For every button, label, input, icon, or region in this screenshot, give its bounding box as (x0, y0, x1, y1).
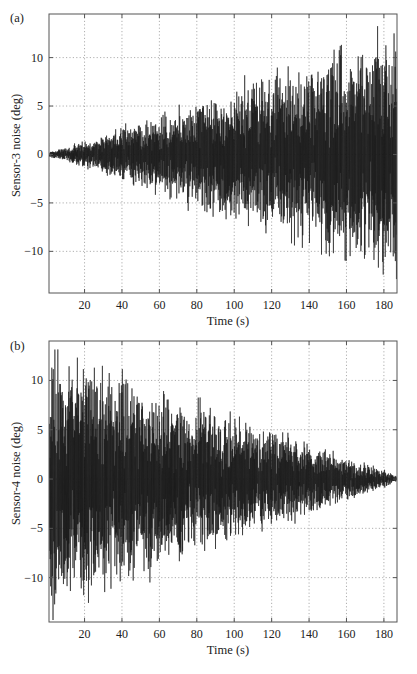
y-axis-label-a: Sensor-3 noise (deg) (9, 94, 23, 197)
x-tick-label: 160 (337, 298, 355, 312)
x-tick-label: 180 (375, 627, 393, 641)
y-tick-label: 0 (37, 472, 43, 486)
x-tick-label: 20 (79, 298, 91, 312)
figure: (a) 20406080100120140160180−10−50510 Tim… (0, 0, 417, 674)
x-tick-label: 100 (225, 298, 243, 312)
x-tick-label: 40 (116, 298, 128, 312)
x-tick-label: 160 (337, 627, 355, 641)
x-tick-label: 80 (191, 298, 203, 312)
x-tick-label: 100 (225, 627, 243, 641)
y-tick-label: −10 (24, 244, 43, 258)
y-tick-label: −5 (30, 521, 43, 535)
x-axis-label-b: Time (s) (207, 643, 249, 657)
noise-trace-b (49, 349, 397, 620)
y-tick-label: 0 (37, 147, 43, 161)
chart-panel-a: (a) 20406080100120140160180−10−50510 Tim… (9, 11, 397, 328)
y-axis-label-b: Sensor-4 noise (deg) (9, 422, 23, 525)
x-tick-label: 120 (263, 627, 281, 641)
chart-panel-b: (b) 20406080100120140160180−10−50510 Tim… (9, 339, 397, 657)
x-tick-label: 180 (375, 298, 393, 312)
x-tick-label: 60 (153, 627, 165, 641)
x-tick-label: 120 (263, 298, 281, 312)
panel-label-b: (b) (10, 339, 25, 353)
y-tick-label: 10 (31, 51, 43, 65)
panel-label-a: (a) (10, 11, 24, 25)
noise-trace-a (49, 26, 397, 279)
x-axis-label-a: Time (s) (207, 314, 249, 328)
x-tick-label: 140 (300, 298, 318, 312)
y-tick-label: 10 (31, 373, 43, 387)
y-tick-label: −5 (30, 196, 43, 210)
x-tick-label: 80 (191, 627, 203, 641)
x-tick-label: 140 (300, 627, 318, 641)
y-tick-label: 5 (37, 423, 43, 437)
y-tick-label: −10 (24, 571, 43, 585)
x-tick-label: 20 (79, 627, 91, 641)
y-tick-label: 5 (37, 99, 43, 113)
x-tick-label: 60 (153, 298, 165, 312)
x-tick-label: 40 (116, 627, 128, 641)
